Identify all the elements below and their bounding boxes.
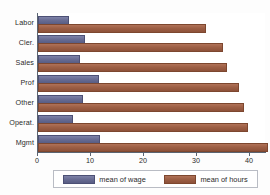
- y-axis-label-mgmt: Mgmt: [0, 138, 34, 147]
- legend-swatch-hours: [164, 175, 196, 184]
- y-axis-label-labor: Labor: [0, 18, 34, 27]
- legend-label-wage: mean of wage: [99, 175, 145, 184]
- y-axis-tick-labels: LaborCler.SalesProfOtherOperat.Mgmt: [0, 13, 34, 152]
- y-axis-label-prof: Prof: [0, 78, 34, 87]
- bar-group-sales: [38, 53, 266, 73]
- legend-item-hours: mean of hours: [164, 175, 247, 184]
- x-tick-label: 0: [35, 156, 39, 165]
- bar-hours-labor: [38, 24, 206, 33]
- x-tick-label: 30: [192, 156, 200, 165]
- x-tick-label: 10: [86, 156, 94, 165]
- legend-label-hours: mean of hours: [200, 175, 247, 184]
- legend-item-wage: mean of wage: [63, 175, 145, 184]
- legend-swatch-wage: [63, 175, 95, 184]
- bar-group-cler: [38, 33, 266, 53]
- bar-chart: LaborCler.SalesProfOtherOperat.Mgmt 0102…: [0, 0, 270, 195]
- bar-group-labor: [38, 13, 266, 33]
- y-axis-label-sales: Sales: [0, 58, 34, 67]
- x-tick-label: 20: [139, 156, 147, 165]
- y-axis-label-cler: Cler.: [0, 38, 34, 47]
- bar-hours-prof: [38, 83, 239, 92]
- x-tick-label: 40: [245, 156, 253, 165]
- y-axis-label-other: Other: [0, 98, 34, 107]
- bar-group-other: [38, 92, 266, 112]
- bar-group-operat: [38, 112, 266, 132]
- bar-group-mgmt: [38, 132, 266, 152]
- bar-hours-operat: [38, 123, 248, 132]
- bar-hours-sales: [38, 63, 227, 72]
- x-axis-ticks: 010203040: [37, 153, 266, 167]
- bar-group-prof: [38, 73, 266, 93]
- bar-hours-other: [38, 103, 244, 112]
- bar-hours-mgmt: [38, 143, 268, 152]
- bar-rows: [38, 13, 266, 152]
- chart-legend: mean of wage mean of hours: [53, 170, 258, 188]
- bar-hours-cler: [38, 43, 223, 52]
- y-axis-label-operat: Operat.: [0, 118, 34, 127]
